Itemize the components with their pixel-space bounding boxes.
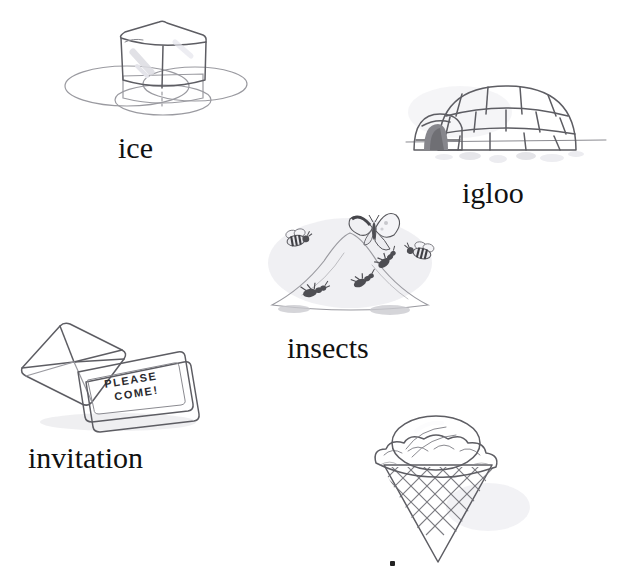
igloo-joint-l xyxy=(524,133,526,150)
snow-chunk-1 xyxy=(459,152,481,160)
snow-chunk-6 xyxy=(435,154,453,160)
envelope-flap-top-left xyxy=(60,326,74,362)
snow-chunk-2 xyxy=(489,155,507,163)
igloo-joint-m xyxy=(554,136,560,150)
ice-cube-vertical-edge xyxy=(162,46,163,88)
illustration-ice xyxy=(55,18,265,133)
envelope-body xyxy=(22,323,126,405)
cream-bump-1 xyxy=(384,450,402,455)
ice-cube-base xyxy=(123,74,203,103)
butterfly-body xyxy=(372,222,376,240)
invitation-shadow xyxy=(40,413,196,431)
igloo-joint-c xyxy=(520,87,522,114)
puddle-right xyxy=(143,67,247,101)
anthill-base-scatter-1 xyxy=(278,305,310,313)
anthill-base-scatter-2 xyxy=(370,305,410,315)
snow-chunk-3 xyxy=(516,152,536,160)
igloo-joint-j xyxy=(458,136,460,150)
scoop-highlight xyxy=(416,423,442,431)
illustration-igloo xyxy=(400,70,615,175)
caption-ice: ice xyxy=(118,133,153,163)
illustration-ice-cream xyxy=(350,415,520,565)
snow-chunk-4 xyxy=(540,154,564,162)
ice-cream-cream-rim xyxy=(375,435,497,477)
cream-bump-3 xyxy=(434,445,454,449)
snow-chunk-5 xyxy=(568,151,584,157)
illustration-invitation: PLEASE COME! xyxy=(8,310,223,435)
caption-invitation: invitation xyxy=(28,443,143,473)
caption-insects: insects xyxy=(287,333,369,363)
caption-ice-cream-cropped xyxy=(390,561,395,566)
caption-igloo: igloo xyxy=(462,178,524,208)
envelope-flap-crease-left xyxy=(22,362,74,368)
illustration-insects xyxy=(262,205,437,325)
